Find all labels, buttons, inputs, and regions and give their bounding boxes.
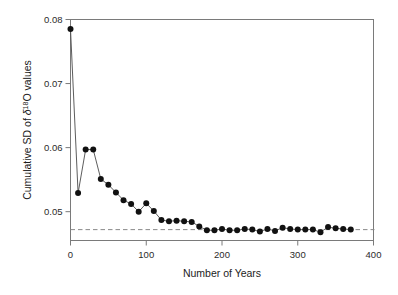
data-point: 70, 0.0518 [121, 197, 127, 203]
data-point: 310, 0.0472 [302, 227, 308, 233]
y-tick-label-0.05: 0.05 [44, 206, 63, 217]
y-axis-title-suffix: O values [21, 60, 33, 101]
data-point: 90, 0.05 [136, 209, 142, 215]
data-point: 60, 0.053 [113, 189, 119, 195]
data-point: 130, 0.0485 [166, 218, 172, 224]
data-point: 300, 0.0472 [295, 227, 301, 233]
data-point: 250, 0.0469 [257, 229, 263, 235]
chart-figure: 0100200300400 0.050.060.070.08 0, 0.0785… [0, 0, 398, 295]
data-point: 110, 0.0501 [151, 208, 157, 214]
data-point: 100, 0.0513 [143, 200, 149, 206]
x-axis-title: Number of Years [183, 267, 261, 279]
data-point: 350, 0.0474 [333, 225, 339, 231]
data-point: 360, 0.0473 [340, 226, 346, 232]
x-tick-label-400: 400 [366, 249, 382, 260]
data-point: 40, 0.0551 [98, 176, 104, 182]
data-point: 340, 0.0476 [325, 224, 331, 230]
data-point: 0, 0.0785 [68, 26, 74, 32]
x-tick-label-0: 0 [68, 249, 73, 260]
y-tick-label-0.06: 0.06 [44, 142, 63, 153]
data-point: 290, 0.0473 [287, 226, 293, 232]
y-tick-label-0.08: 0.08 [44, 14, 63, 25]
cumulative-sd-scatter-chart: 0100200300400 0.050.060.070.08 0, 0.0785… [0, 0, 398, 295]
x-tick-label-300: 300 [290, 249, 306, 260]
data-point: 180, 0.0471 [204, 227, 210, 233]
y-axis-title-superscript: 18 [22, 101, 29, 109]
x-tick-label-200: 200 [214, 249, 230, 260]
data-point: 20, 0.0597 [83, 147, 89, 153]
data-point: 370, 0.0472 [348, 227, 354, 233]
data-point: 120, 0.0487 [158, 217, 164, 223]
data-point: 170, 0.0477 [196, 223, 202, 229]
data-point: 260, 0.0473 [264, 226, 270, 232]
data-point: 230, 0.0473 [242, 226, 248, 232]
data-point: 240, 0.0472 [249, 227, 255, 233]
data-point: 280, 0.0475 [280, 225, 286, 231]
data-point: 210, 0.0471 [227, 227, 233, 233]
data-point: 30, 0.0597 [90, 147, 96, 153]
data-point: 160, 0.0484 [189, 219, 195, 225]
data-point: 200, 0.0473 [219, 226, 225, 232]
data-point: 270, 0.047 [272, 228, 278, 234]
data-point: 330, 0.0468 [317, 229, 323, 235]
data-point: 140, 0.0486 [174, 218, 180, 224]
y-axis-title-prefix: Cumulative SD of [21, 115, 33, 200]
y-axis-title: Cumulative SD of δ18O values [21, 60, 33, 200]
y-tick-label-0.07: 0.07 [44, 78, 63, 89]
data-point: 10, 0.0529 [75, 190, 81, 196]
data-point: 50, 0.0542 [105, 182, 111, 188]
data-point: 320, 0.0472 [310, 227, 316, 233]
data-point: 80, 0.0512 [128, 201, 134, 207]
data-point: 150, 0.0485 [181, 218, 187, 224]
x-tick-label-100: 100 [138, 249, 154, 260]
data-point: 190, 0.0471 [211, 227, 217, 233]
data-point: 220, 0.0471 [234, 227, 240, 233]
